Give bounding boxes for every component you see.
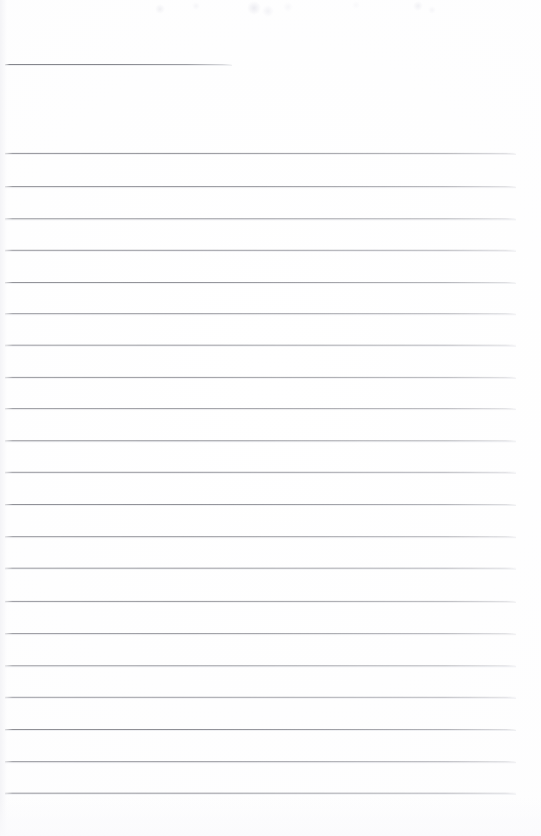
ruled-line	[5, 408, 516, 409]
ruled-line	[5, 665, 516, 666]
ruled-line	[5, 282, 516, 283]
ruled-line	[5, 313, 516, 314]
ruled-line	[5, 729, 516, 730]
page-left-edge-shadow	[0, 0, 7, 836]
ruled-line	[5, 472, 516, 473]
page-bottom-edge-shadow	[0, 796, 541, 836]
ruled-line	[5, 697, 516, 698]
ruled-line	[5, 536, 516, 537]
ruled-line	[5, 440, 516, 441]
ruled-line	[5, 601, 516, 602]
ruled-line	[5, 186, 516, 187]
ruled-line	[5, 633, 516, 634]
ruled-line	[5, 153, 516, 154]
title-rule	[5, 64, 232, 65]
paper-texture	[0, 0, 541, 836]
ruled-line	[5, 250, 516, 251]
ruled-line	[5, 345, 516, 346]
scan-speckle	[0, 0, 541, 26]
ruled-line	[5, 504, 516, 505]
ruled-line	[5, 568, 516, 569]
ruled-line	[5, 761, 516, 762]
ruled-line	[5, 218, 516, 219]
ruled-line	[5, 793, 516, 794]
ruled-line	[5, 377, 516, 378]
notepad-page	[0, 0, 541, 836]
